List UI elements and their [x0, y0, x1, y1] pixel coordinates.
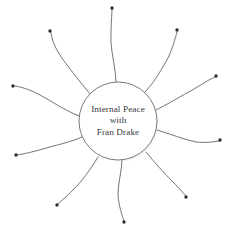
ray-west-upper — [11, 84, 79, 116]
ray-east-lower — [157, 130, 222, 142]
ray-west-upper-path — [15, 86, 79, 116]
ray-south — [118, 160, 126, 224]
ray-southwest-tip-dot — [55, 203, 58, 206]
ray-north-path — [111, 9, 116, 82]
ray-northwest-path — [51, 33, 90, 94]
ray-southwest — [55, 157, 98, 207]
ray-northwest — [48, 29, 90, 94]
ray-east-upper-path — [156, 77, 215, 110]
sunburst-diagram — [0, 0, 230, 236]
ray-west-lower-tip-dot — [14, 153, 17, 156]
ray-southwest-path — [58, 157, 98, 204]
ray-south-path — [118, 160, 124, 221]
ray-northeast-path — [143, 32, 177, 94]
ray-northeast — [143, 28, 179, 94]
ray-east-upper — [156, 74, 218, 110]
ray-northwest-tip-dot — [48, 29, 51, 32]
ray-south-tip-dot — [122, 220, 125, 223]
diagram-canvas: Internal Peace with Fran Drake — [0, 0, 230, 236]
ray-west-upper-tip-dot — [11, 84, 14, 87]
hub-circle — [79, 82, 157, 160]
ray-west-lower — [14, 137, 82, 157]
ray-southeast — [146, 152, 188, 199]
ray-east-upper-tip-dot — [214, 74, 217, 77]
ray-east-lower-tip-dot — [218, 138, 221, 141]
ray-north-tip-dot — [110, 6, 113, 9]
ray-north — [110, 6, 116, 82]
ray-west-lower-path — [17, 137, 82, 155]
ray-east-lower-path — [157, 130, 219, 142]
ray-southeast-tip-dot — [184, 195, 187, 198]
ray-southeast-path — [146, 152, 186, 196]
ray-northeast-tip-dot — [175, 28, 178, 31]
